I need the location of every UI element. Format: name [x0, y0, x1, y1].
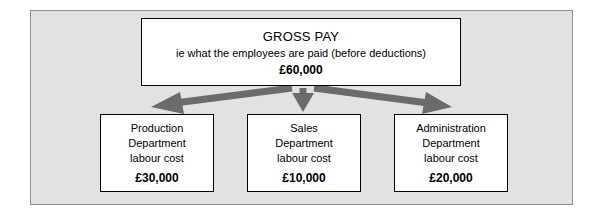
administration-amount: £20,000 [429, 170, 472, 186]
diagram-root: GROSS PAY ie what the employees are paid… [0, 0, 603, 216]
production-amount: £30,000 [135, 170, 178, 186]
production-line-3: labour cost [130, 151, 184, 166]
production-department-box: Production Department labour cost £30,00… [100, 114, 214, 192]
sales-department-box: Sales Department labour cost £10,000 [247, 114, 361, 192]
sales-line-2: Department [275, 136, 332, 151]
production-line-1: Production [131, 121, 184, 136]
administration-line-1: Administration [416, 121, 486, 136]
gross-pay-title: GROSS PAY [263, 28, 339, 45]
gross-pay-amount: £60,000 [279, 62, 322, 79]
production-line-2: Department [128, 136, 185, 151]
administration-line-2: Department [422, 136, 479, 151]
sales-line-3: labour cost [277, 151, 331, 166]
administration-department-box: Administration Department labour cost £2… [394, 114, 508, 192]
sales-amount: £10,000 [282, 170, 325, 186]
gross-pay-subtitle: ie what the employees are paid (before d… [176, 45, 426, 61]
administration-line-3: labour cost [424, 151, 478, 166]
sales-line-1: Sales [290, 121, 318, 136]
gross-pay-box: GROSS PAY ie what the employees are paid… [141, 18, 461, 86]
